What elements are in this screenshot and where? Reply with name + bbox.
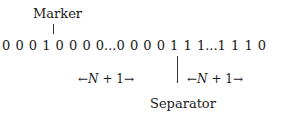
plus-one: + 1	[99, 72, 124, 86]
n-symbol: N	[197, 72, 208, 86]
left-arrow-icon: ←	[78, 72, 88, 86]
right-arrow-icon: →	[124, 72, 134, 86]
left-length-annotation: ←N + 1→	[78, 72, 134, 86]
left-arrow-icon: ←	[187, 72, 197, 86]
separator-label: Separator	[150, 96, 216, 111]
right-length-annotation: ←N + 1→	[187, 72, 243, 86]
plus-one: + 1	[208, 72, 233, 86]
marker-label: Marker	[33, 6, 82, 21]
n-symbol: N	[88, 72, 99, 86]
marker-line	[53, 24, 54, 34]
separator-line	[177, 56, 178, 83]
bit-sequence: 0 0 0 1 0 0 0 0...0 0 0 0 1 1 1...1 1 1 …	[2, 38, 266, 53]
right-arrow-icon: →	[233, 72, 243, 86]
